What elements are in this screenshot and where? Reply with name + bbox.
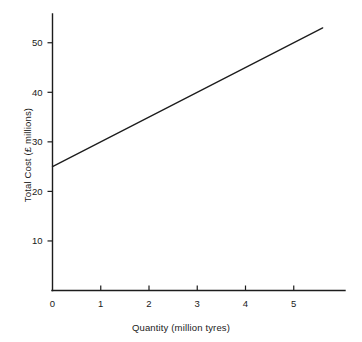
x-tick-label: 0: [50, 298, 55, 309]
y-tick-label: 10: [32, 235, 43, 246]
y-tick-label: 50: [32, 37, 43, 48]
y-axis-title: Total Cost (£ millions): [22, 108, 33, 202]
x-tick-label: 4: [243, 298, 248, 309]
x-tick-label: 5: [291, 298, 296, 309]
chart-container: 012345 1020304050 Quantity (million tyre…: [0, 0, 362, 342]
y-axis-tick-labels: 1020304050: [32, 37, 43, 246]
y-axis-tick-marks: [48, 43, 53, 241]
y-tick-label: 20: [32, 186, 43, 197]
y-tick-label: 40: [32, 87, 43, 98]
data-series-group: [53, 28, 323, 167]
x-axis-tick-marks: [101, 286, 294, 291]
x-tick-label: 1: [98, 298, 103, 309]
x-tick-label: 2: [146, 298, 151, 309]
total-cost-line-chart: 012345 1020304050 Quantity (million tyre…: [0, 0, 362, 342]
x-tick-label: 3: [195, 298, 200, 309]
total-cost-line: [53, 28, 323, 167]
x-axis-title: Quantity (million tyres): [132, 322, 230, 333]
y-tick-label: 30: [32, 136, 43, 147]
x-axis-tick-labels: 012345: [50, 298, 297, 309]
